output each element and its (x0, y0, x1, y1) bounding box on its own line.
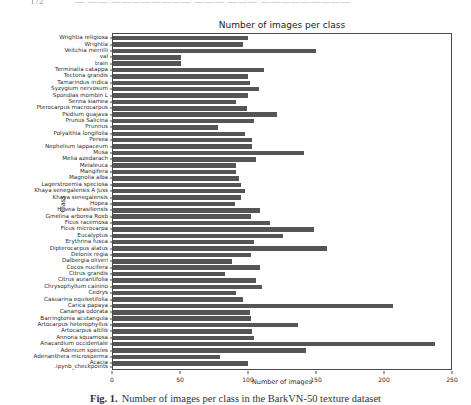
bar (113, 246, 327, 251)
bar (113, 348, 306, 353)
bar (113, 106, 247, 111)
y-tick-mark (110, 197, 113, 198)
bar (113, 202, 235, 207)
bar (113, 49, 316, 54)
y-tick-mark (110, 44, 113, 45)
bar (113, 272, 225, 277)
y-tick-mark (110, 184, 113, 185)
y-tick-mark (110, 344, 113, 345)
y-tick-mark (110, 235, 113, 236)
chart-title: Number of images per class (112, 20, 452, 30)
bar (113, 183, 241, 188)
bar (113, 253, 251, 258)
bar (113, 329, 252, 334)
caption-text: Number of images per class in the BarkVN… (122, 393, 381, 404)
y-axis-label: Class (59, 195, 67, 212)
bar (113, 93, 248, 98)
y-tick-mark (110, 203, 113, 204)
bar (113, 55, 181, 60)
caption-label: Fig. 1. (90, 393, 118, 404)
figure-caption: Fig. 1.Number of images per class in the… (0, 393, 471, 404)
y-tick-mark (110, 89, 113, 90)
y-tick-mark (110, 293, 113, 294)
y-tick-mark (110, 267, 113, 268)
page-number: 172 (30, 0, 44, 6)
y-tick-mark (110, 76, 113, 77)
bar (113, 336, 254, 341)
bar (113, 297, 243, 302)
x-tick-mark (112, 371, 113, 374)
bar (113, 221, 270, 226)
bar (113, 316, 251, 321)
bar (113, 119, 254, 124)
y-tick-mark (110, 318, 113, 319)
y-tick-mark (110, 50, 113, 51)
y-tick-mark (110, 363, 113, 364)
y-tick-mark (110, 286, 113, 287)
y-tick-mark (110, 331, 113, 332)
bar (113, 323, 298, 328)
y-tick-mark (110, 350, 113, 351)
y-tick-mark (110, 274, 113, 275)
y-tick-mark (110, 63, 113, 64)
y-tick-mark (110, 108, 113, 109)
bar (113, 214, 251, 219)
page-header: 172 — —— ———————— ——— ——— ————————— (0, 0, 471, 6)
bar (113, 163, 236, 168)
bar (113, 138, 252, 143)
bar (113, 342, 435, 347)
bar (113, 291, 236, 296)
bar (113, 208, 260, 213)
y-tick-mark (110, 95, 113, 96)
y-tick-mark (110, 223, 113, 224)
page-header-text: 172 — —— ———————— ——— ——— ————————— (0, 0, 471, 6)
x-axis-label: Number of images (112, 378, 452, 386)
bar (113, 81, 250, 86)
bar (113, 361, 248, 366)
bar (113, 125, 218, 130)
y-tick-mark (110, 210, 113, 211)
y-tick-mark (110, 191, 113, 192)
x-tick-mark (316, 371, 317, 374)
bar (113, 68, 264, 73)
bar (113, 157, 256, 162)
plot-area: Wrightia religiosaWrightiaVeitchia merri… (112, 33, 452, 370)
bar (113, 100, 236, 105)
bar (113, 112, 277, 117)
bar (113, 240, 254, 245)
bar (113, 170, 236, 175)
category-label: .ipynb_checkpoints (54, 365, 108, 371)
y-tick-mark (110, 305, 113, 306)
y-tick-mark (110, 312, 113, 313)
y-tick-mark (110, 127, 113, 128)
bar (113, 195, 241, 200)
bar (113, 151, 304, 156)
bar (113, 310, 250, 315)
y-tick-mark (110, 114, 113, 115)
x-tick-mark (384, 371, 385, 374)
bar (113, 42, 243, 47)
running-title: — —— ———————— ——— ——— ————————— (75, 0, 351, 6)
y-tick-mark (110, 325, 113, 326)
y-tick-mark (110, 172, 113, 173)
y-tick-mark (110, 38, 113, 39)
y-tick-mark (110, 57, 113, 58)
y-tick-mark (110, 248, 113, 249)
y-tick-mark (110, 70, 113, 71)
y-tick-mark (110, 261, 113, 262)
x-tick-mark (180, 371, 181, 374)
y-tick-mark (110, 242, 113, 243)
y-tick-mark (110, 178, 113, 179)
bar (113, 132, 245, 137)
bar (113, 189, 245, 194)
y-tick-mark (110, 152, 113, 153)
y-tick-mark (110, 299, 113, 300)
bar (113, 234, 283, 239)
bar-row: .ipynb_checkpoints (113, 367, 451, 369)
x-tick-mark (452, 371, 453, 374)
y-tick-mark (110, 159, 113, 160)
bar (113, 265, 260, 270)
y-tick-mark (110, 356, 113, 357)
bar (113, 61, 181, 66)
bar (113, 227, 314, 232)
